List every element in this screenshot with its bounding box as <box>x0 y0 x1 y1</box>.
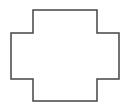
cross-shape <box>11 10 119 101</box>
cross-shape-svg <box>0 0 128 108</box>
diagram-canvas <box>0 0 128 108</box>
